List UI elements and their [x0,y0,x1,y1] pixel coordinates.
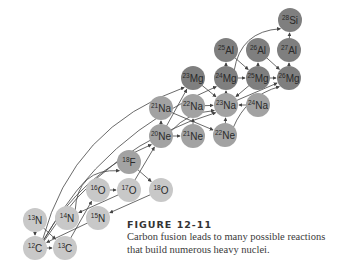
nucleus-ne20: 20Ne [149,124,173,148]
reaction-arrow-mg23-to-na23 [202,85,216,97]
nucleus-n13: 13N [23,208,47,232]
nucleus-na24: 24Na [246,93,270,117]
reaction-arrow-f18-to-o18 [137,169,151,181]
caption-line-1: Carbon fusion leads to many possible rea… [127,231,345,243]
nucleus-n15: 15N [86,206,110,230]
reaction-arrow-al25-to-mg25 [234,57,248,69]
caption-line-2: that build numerous heavy nuclei. [127,244,345,256]
nucleus-al26: 26Al [246,38,270,62]
nucleus-na23: 23Na [214,93,238,117]
nucleus-o18: 18O [149,178,173,202]
nucleus-mg26: 26Mg [277,66,301,90]
nucleus-mg25: 25Mg [246,66,270,90]
nucleus-mg24: 24Mg [214,66,238,90]
nucleus-na22: 22Na [181,94,205,118]
nucleus-o16: 16O [86,178,110,202]
nucleus-o17: 17O [117,178,141,202]
nucleus-si28: 28Si [278,8,302,32]
nucleus-c12: 12C [23,236,47,260]
nucleus-mg23: 23Mg [181,66,205,90]
nucleus-al27: 27Al [277,38,301,62]
nucleus-f18: 18F [117,150,141,174]
reaction-arrow-al26-to-mg26 [266,57,279,69]
nucleus-c13: 13C [53,236,77,260]
nucleus-ne22: 22Ne [213,123,237,147]
reaction-arrow-mg25-to-na23 [236,85,250,97]
nucleus-n14: 14N [55,206,79,230]
nucleus-al25: 25Al [214,38,238,62]
nucleus-na21: 21Na [149,96,173,120]
figure-title: FIGURE 12-11 [127,219,345,230]
nucleus-ne21: 21Ne [181,124,205,148]
figure-caption: FIGURE 12-11 Carbon fusion leads to many… [127,219,345,256]
